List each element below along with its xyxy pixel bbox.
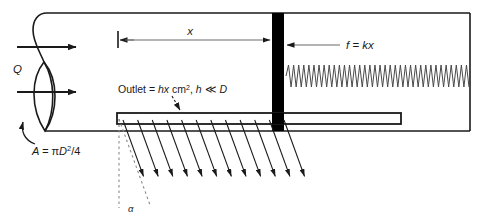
- outlet-label-d: D: [219, 83, 227, 95]
- angle-alpha-label: α: [128, 203, 134, 214]
- ellipse-lens-shape: [34, 62, 55, 131]
- angle-alpha-callout: α: [119, 119, 150, 214]
- spring-force-equals: =: [349, 39, 362, 51]
- inlet-flow-arrows: [17, 47, 76, 92]
- outlet-label-hx: hx: [158, 83, 170, 95]
- outlet-label-muchless: ≪: [202, 83, 220, 95]
- dimension-x: x: [118, 25, 270, 48]
- dimension-x-label: x: [186, 25, 194, 37]
- ellipse-front-edge: [44, 62, 53, 131]
- spring-force-x: x: [367, 39, 375, 51]
- pipe-open-end-ellipse: [34, 62, 55, 131]
- area-label: A = πD2/4: [31, 144, 80, 158]
- slot-plate-outline: [117, 113, 401, 124]
- outlet-label-prefix: Outlet =: [118, 83, 158, 95]
- area-leader-line: [22, 122, 35, 144]
- slot-plate-piston-overlap: [272, 113, 284, 124]
- area-callout: A = πD2/4: [22, 122, 80, 157]
- area-label-prefix: A =: [31, 145, 51, 157]
- area-label-suffix: /4: [71, 145, 80, 157]
- spring-force-label: f = kx: [346, 39, 375, 51]
- outlet-label-cm: cm: [169, 83, 186, 95]
- pipe-top-wall: [33, 13, 470, 62]
- diagram-canvas: Q A = πD2/4 x f = kx: [0, 0, 483, 220]
- area-label-d: D: [59, 145, 67, 157]
- outlet-callout: Outlet = hx cm2, h ≪ D: [118, 83, 227, 110]
- alpha-jet-reference: [119, 119, 150, 205]
- outlet-slot-plate: [117, 113, 401, 124]
- spring-force-callout: f = kx: [287, 39, 375, 51]
- outlet-label: Outlet = hx cm2, h ≪ D: [118, 83, 227, 95]
- technical-diagram: Q A = πD2/4 x f = kx: [0, 0, 483, 220]
- outlet-leader-line: [172, 96, 180, 110]
- spring-coil: [286, 65, 469, 87]
- flow-rate-label: Q: [13, 63, 22, 75]
